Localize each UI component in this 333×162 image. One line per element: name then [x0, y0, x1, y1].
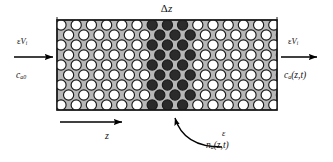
pellet-light [71, 80, 81, 90]
pellet-light [200, 70, 210, 80]
pellet-light [231, 90, 241, 100]
pellet-light [124, 30, 134, 40]
pellet-light [223, 100, 233, 110]
pellet-light [276, 50, 286, 60]
pellet-dark [170, 30, 180, 40]
pellet-light [109, 90, 119, 100]
outlet-flux-label: εVi [288, 37, 298, 46]
pellet-light [71, 100, 81, 110]
pellet-light [254, 60, 264, 70]
pellet-light [193, 20, 203, 30]
pellet-light [71, 20, 81, 30]
pellet-light [238, 60, 248, 70]
pellet-dark [170, 90, 180, 100]
pellet-light [246, 50, 256, 60]
pellet-light [208, 40, 218, 50]
pellet-light [109, 30, 119, 40]
pellet-light [132, 60, 142, 70]
pellet-light [86, 20, 96, 30]
pellet-light [102, 40, 112, 50]
pellet-light [200, 50, 210, 60]
solid-loading-label: na(z,t) [206, 141, 229, 151]
outlet-concentration-label: ca(z,t) [284, 71, 306, 81]
pellet-dark [155, 90, 165, 100]
pellet-light [117, 40, 127, 50]
pellet-dark [178, 80, 188, 90]
pellet-dark [178, 20, 188, 30]
pellet-dark [185, 70, 195, 80]
packed-bed-vessel [56, 20, 287, 110]
z-axis-label: z [105, 131, 109, 141]
pellet-dark [170, 70, 180, 80]
pellet-dark [155, 30, 165, 40]
pellet-dark [162, 80, 172, 90]
pellet-light [64, 90, 74, 100]
pellet-light [208, 20, 218, 30]
pellet-light [140, 90, 150, 100]
pellet-light [79, 90, 89, 100]
pellet-dark [185, 30, 195, 40]
pellet-dark [147, 60, 157, 70]
pellet-light [276, 30, 286, 40]
pellet-light [193, 80, 203, 90]
pellet-light [238, 100, 248, 110]
pellet-light [124, 90, 134, 100]
pellet-dark [185, 90, 195, 100]
pellet-light [254, 40, 264, 50]
pellet-light [208, 80, 218, 90]
pellet-light [117, 20, 127, 30]
pellet-light [276, 90, 286, 100]
pellet-light [86, 80, 96, 90]
pellet-light [216, 50, 226, 60]
inlet-concentration-label: ca0 [16, 71, 26, 81]
pellet-light [200, 30, 210, 40]
pellet-light [261, 90, 271, 100]
pellet-light [79, 30, 89, 40]
porosity-label: ε [222, 129, 225, 138]
pellet-light [216, 90, 226, 100]
pellet-light [94, 90, 104, 100]
delta-z-label: Δz [0, 3, 333, 14]
outlet-flux-subscript: i [297, 40, 298, 46]
pellet-dark [178, 60, 188, 70]
inlet-conc-subscript: a0 [20, 74, 26, 80]
pellet-dark [185, 50, 195, 60]
porosity-symbol: ε [222, 128, 225, 138]
pellet-light [86, 100, 96, 110]
pellet-dark [162, 60, 172, 70]
pellet-light [86, 40, 96, 50]
pellet-light [124, 50, 134, 60]
pellet-light [132, 20, 142, 30]
pellet-light [86, 60, 96, 70]
pellet-dark [162, 20, 172, 30]
pellet-dark [178, 100, 188, 110]
pellet-light [238, 20, 248, 30]
pellet-light [261, 50, 271, 60]
pellet-dark [147, 20, 157, 30]
pellet-light [223, 60, 233, 70]
pellet-light [117, 80, 127, 90]
solid-loading-argument: (z,t) [214, 140, 229, 150]
outlet-conc-argument: (z,t) [291, 70, 306, 80]
pellet-light [254, 80, 264, 90]
pellet-light [246, 70, 256, 80]
pellet-dark [147, 100, 157, 110]
delta-z-variable: z [168, 2, 172, 14]
pellet-light [109, 70, 119, 80]
pellet-light [208, 60, 218, 70]
pellet-light [261, 30, 271, 40]
pellet-light [246, 90, 256, 100]
pellet-light [238, 40, 248, 50]
pellet-dark [162, 100, 172, 110]
pellet-light [71, 40, 81, 50]
pellet-light [109, 50, 119, 60]
pellet-light [117, 60, 127, 70]
pellet-light [208, 100, 218, 110]
pellet-dark [155, 70, 165, 80]
pellet-dark [178, 40, 188, 50]
pellet-light [102, 100, 112, 110]
pellet-light [102, 80, 112, 90]
pellet-light [216, 70, 226, 80]
pellet-light [231, 30, 241, 40]
pellet-light [246, 30, 256, 40]
